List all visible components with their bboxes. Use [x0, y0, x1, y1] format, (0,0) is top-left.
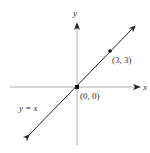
x-axis-label: x [142, 82, 147, 92]
point-3-3-label: (3, 3) [112, 55, 132, 65]
point-3-3 [108, 49, 112, 53]
line-y-equals-x [29, 26, 135, 135]
point-origin [75, 85, 79, 89]
equation-label: y = x [18, 103, 38, 113]
coordinate-plane: x y (3, 3) (0, 0) y = x [0, 0, 150, 153]
y-axis-label: y [72, 8, 77, 18]
point-origin-label: (0, 0) [80, 91, 100, 101]
